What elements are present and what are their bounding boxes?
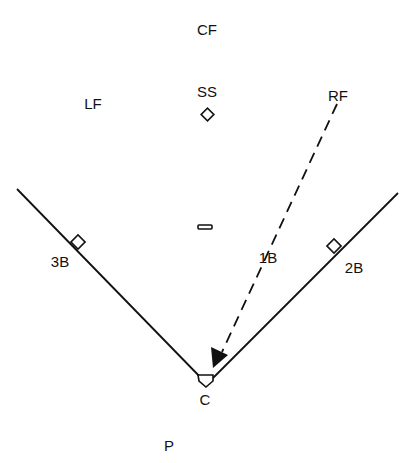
baseball-field-diagram: CF SS LF RF 3B 1B 2B C P [0, 0, 410, 463]
third-base-foul-line [17, 189, 205, 382]
label-catcher: C [200, 391, 211, 408]
label-left-field: LF [84, 95, 102, 112]
first-base-foul-line [209, 193, 398, 382]
label-center-field: CF [197, 21, 217, 38]
shortstop-diamond-icon [201, 108, 214, 121]
pitchers-rubber-icon [198, 225, 212, 229]
label-second-base: 2B [345, 259, 363, 276]
throw-path-dashed-arrow [222, 104, 337, 352]
label-pitcher: P [164, 437, 174, 454]
home-plate-icon [198, 375, 213, 387]
label-shortstop: SS [197, 83, 217, 100]
label-first-base: 1B [259, 249, 277, 266]
label-right-field: RF [328, 87, 348, 104]
label-third-base: 3B [51, 253, 69, 270]
